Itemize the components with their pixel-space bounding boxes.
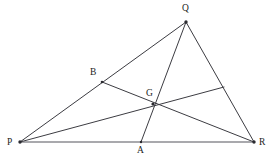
geometry-figure: P Q R A B G — [0, 0, 269, 163]
vertex-dot-q — [184, 20, 187, 23]
segment-qr — [186, 22, 254, 142]
vertex-dot-b — [101, 81, 104, 84]
median-pc — [20, 87, 224, 142]
median-qa — [141, 22, 186, 142]
median-br — [102, 82, 254, 142]
vertex-dot-a — [140, 141, 142, 143]
vertex-dot-r — [252, 140, 255, 143]
label-point-r: R — [259, 138, 266, 148]
label-point-a: A — [137, 146, 144, 156]
label-point-g: G — [146, 89, 153, 99]
label-point-q: Q — [182, 4, 189, 14]
label-point-p: P — [7, 138, 12, 148]
vertex-dot-p — [18, 140, 21, 143]
vertex-dot-g — [151, 102, 154, 105]
geometry-canvas — [0, 0, 269, 163]
label-point-b: B — [90, 68, 97, 78]
